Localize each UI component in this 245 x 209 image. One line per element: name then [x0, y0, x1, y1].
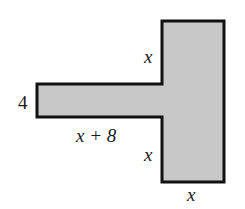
label-arm-length: x + 8 — [75, 125, 117, 146]
t-shape-diagram: 4 x + 8 x x x — [0, 0, 245, 209]
t-shape-polygon — [37, 21, 224, 182]
label-stem-width: x — [186, 184, 196, 205]
label-lower-stem-segment: x — [143, 144, 153, 165]
label-upper-stem-segment: x — [143, 46, 153, 67]
label-arm-height: 4 — [18, 92, 28, 113]
